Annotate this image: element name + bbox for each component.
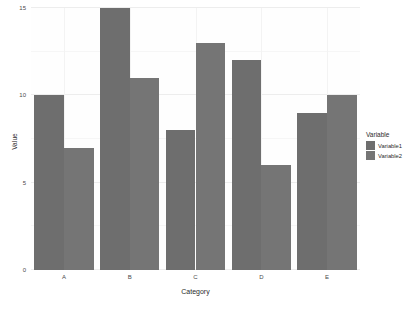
- bar-B-Variable1: [100, 8, 130, 270]
- bar-E-Variable2: [327, 95, 357, 270]
- bars-layer: [31, 8, 360, 270]
- legend-swatch-Variable2: [366, 151, 375, 160]
- bar-A-Variable1: [34, 95, 64, 270]
- legend-swatch-Variable1: [366, 141, 375, 150]
- legend: Variable Variable1Variable2: [366, 131, 414, 161]
- legend-label-Variable2: Variable2: [378, 153, 402, 159]
- x-tick-label-E: E: [325, 274, 329, 280]
- bar-E-Variable1: [297, 113, 327, 270]
- legend-label-Variable1: Variable1: [378, 143, 402, 149]
- legend-items: Variable1Variable2: [366, 141, 414, 160]
- y-tick-label-0: 0: [23, 267, 26, 273]
- x-axis-tick-labels: ABCDE: [31, 274, 360, 286]
- bar-C-Variable2: [196, 43, 226, 270]
- y-tick-label-15: 15: [19, 5, 26, 11]
- plot-panel: [31, 8, 360, 270]
- y-axis-tick-labels: 051015: [0, 0, 31, 310]
- x-tick-label-C: C: [193, 274, 197, 280]
- legend-title: Variable: [366, 131, 414, 138]
- bar-C-Variable1: [166, 130, 196, 270]
- x-tick-label-B: B: [128, 274, 132, 280]
- y-tick-label-10: 10: [19, 92, 26, 98]
- bar-chart: Value 051015 ABCDE Category Variable Var…: [0, 0, 416, 310]
- legend-item-Variable1[interactable]: Variable1: [366, 141, 414, 150]
- x-tick-label-D: D: [259, 274, 263, 280]
- bar-A-Variable2: [64, 148, 94, 270]
- legend-item-Variable2[interactable]: Variable2: [366, 151, 414, 160]
- bar-D-Variable2: [261, 165, 291, 270]
- bar-D-Variable1: [232, 60, 262, 270]
- x-tick-label-A: A: [62, 274, 66, 280]
- x-axis-title: Category: [31, 288, 360, 295]
- y-tick-label-5: 5: [23, 180, 26, 186]
- bar-B-Variable2: [130, 78, 160, 270]
